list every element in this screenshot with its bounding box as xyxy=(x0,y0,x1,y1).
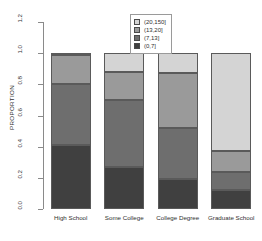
legend-item: (7,13] xyxy=(134,34,166,42)
legend-item-label: (13,20] xyxy=(144,27,163,33)
y-axis-tick-label: 0.6 xyxy=(16,108,36,117)
y-axis-tick xyxy=(38,178,43,179)
y-axis-tick-label: 0.8 xyxy=(16,76,36,85)
legend-item-label: (0,7] xyxy=(144,43,156,49)
x-axis-category-label: Some College xyxy=(98,214,152,221)
bar-segment xyxy=(51,55,91,85)
bar-segment xyxy=(158,179,198,209)
chart-legend: (20,150](13,20](7,13](0,7] xyxy=(130,14,172,54)
stacked-bar-chart: PROPORTION 1.21.00.80.60.40.20.0 High Sc… xyxy=(0,0,262,241)
y-axis-tick xyxy=(38,116,43,117)
legend-item: (0,7] xyxy=(134,42,166,50)
x-axis-category-label: Graduate School xyxy=(205,214,259,221)
legend-swatch-icon xyxy=(134,43,140,49)
bar-group xyxy=(211,22,251,209)
legend-swatch-icon xyxy=(134,19,140,25)
y-axis-tick xyxy=(38,84,43,85)
y-axis-tick xyxy=(38,53,43,54)
y-axis-tick xyxy=(38,209,43,210)
bar-segment xyxy=(104,53,144,72)
bar-group xyxy=(51,22,91,209)
bar-segment xyxy=(51,53,91,55)
legend-item: (13,20] xyxy=(134,26,166,34)
bar-segment xyxy=(211,172,251,191)
bar-stack xyxy=(51,22,91,209)
y-axis-tick-label: 0.4 xyxy=(16,139,36,148)
legend-item-label: (20,150] xyxy=(144,19,166,25)
legend-item-label: (7,13] xyxy=(144,35,159,41)
legend-swatch-icon xyxy=(134,35,140,41)
bar-stack xyxy=(211,22,251,209)
x-axis-category-label: High School xyxy=(44,214,98,221)
y-axis-tick-label: 1.0 xyxy=(16,45,36,54)
bar-segment xyxy=(51,84,91,145)
bar-segment xyxy=(158,73,198,128)
bar-segment xyxy=(104,72,144,100)
bar-segment xyxy=(211,190,251,209)
bar-segment xyxy=(158,128,198,179)
bar-segment xyxy=(211,151,251,171)
y-axis-tick xyxy=(38,147,43,148)
y-axis-tick-label: 0.0 xyxy=(16,201,36,210)
legend-swatch-icon xyxy=(134,27,140,33)
y-axis-tick-label: 1.2 xyxy=(16,14,36,23)
bar-segment xyxy=(104,100,144,167)
bar-segment xyxy=(158,53,198,73)
y-axis-tick xyxy=(38,22,43,23)
bar-segment xyxy=(104,167,144,209)
bar-segment xyxy=(211,53,251,151)
bar-segment xyxy=(51,145,91,209)
y-axis-tick-label: 0.2 xyxy=(16,170,36,179)
legend-item: (20,150] xyxy=(134,18,166,26)
x-axis-category-label: College Degree xyxy=(151,214,205,221)
